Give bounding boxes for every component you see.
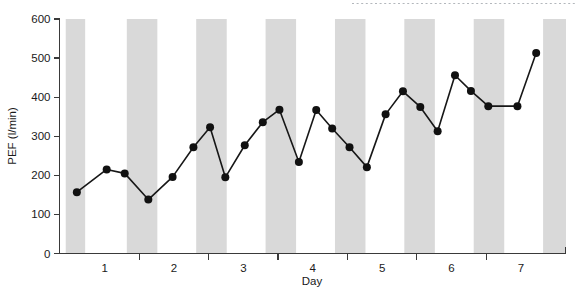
night-band [543, 19, 566, 254]
data-point-marker [295, 158, 303, 166]
data-point-marker [513, 102, 521, 110]
x-tick-label: 3 [240, 262, 246, 274]
data-point-marker [144, 196, 152, 204]
data-point-marker [467, 87, 475, 95]
chart-canvas: 0100200300400500600 1234567 PEF (l/min) … [0, 0, 577, 300]
night-band [474, 19, 505, 254]
data-point-marker [221, 173, 229, 181]
data-point-marker [206, 123, 214, 131]
y-tick-label: 600 [31, 13, 50, 25]
x-tick-label: 4 [310, 262, 317, 274]
data-point-marker [382, 110, 390, 118]
data-point-marker [399, 87, 407, 95]
y-axis-ticks: 0100200300400500600 [31, 13, 59, 260]
y-tick-label: 300 [31, 130, 50, 142]
y-tick-label: 100 [31, 208, 50, 220]
data-point-marker [241, 141, 249, 149]
x-tick-label: 6 [448, 262, 454, 274]
data-point-marker [363, 163, 371, 171]
data-point-marker [416, 103, 424, 111]
y-tick-label: 0 [44, 248, 50, 260]
night-band [196, 19, 227, 254]
data-point-marker [434, 127, 442, 135]
y-tick-label: 200 [31, 169, 50, 181]
data-point-marker [451, 71, 459, 79]
x-tick-label: 2 [171, 262, 177, 274]
data-point-marker [169, 173, 177, 181]
data-point-marker [532, 49, 540, 57]
night-band [266, 19, 297, 254]
night-band-group [66, 19, 566, 254]
data-point-marker [484, 102, 492, 110]
data-point-marker [312, 106, 320, 114]
data-point-marker [275, 106, 283, 114]
data-point-marker [103, 165, 111, 173]
data-point-marker [328, 124, 336, 132]
night-band [127, 19, 158, 254]
data-point-marker [259, 118, 267, 126]
x-tick-label: 1 [101, 262, 107, 274]
data-point-marker [73, 188, 81, 196]
data-point-marker [189, 143, 197, 151]
x-tick-label: 5 [379, 262, 385, 274]
x-axis-title: Day [302, 275, 323, 287]
night-band [66, 19, 85, 254]
night-band [404, 19, 435, 254]
y-tick-label: 500 [31, 52, 50, 64]
x-axis-ticks: 1234567 [101, 254, 524, 274]
x-tick-label: 7 [518, 262, 524, 274]
data-point-marker [121, 169, 129, 177]
pef-diary-chart: 0100200300400500600 1234567 PEF (l/min) … [0, 0, 577, 300]
y-axis-title: PEF (l/min) [6, 107, 18, 165]
data-point-marker [346, 143, 354, 151]
y-tick-label: 400 [31, 91, 50, 103]
